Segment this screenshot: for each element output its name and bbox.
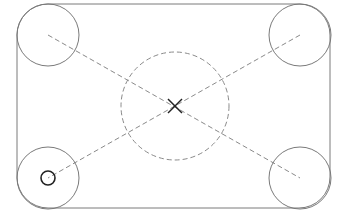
diagram-canvas [0, 0, 345, 218]
center-x-marker-icon [168, 99, 182, 113]
